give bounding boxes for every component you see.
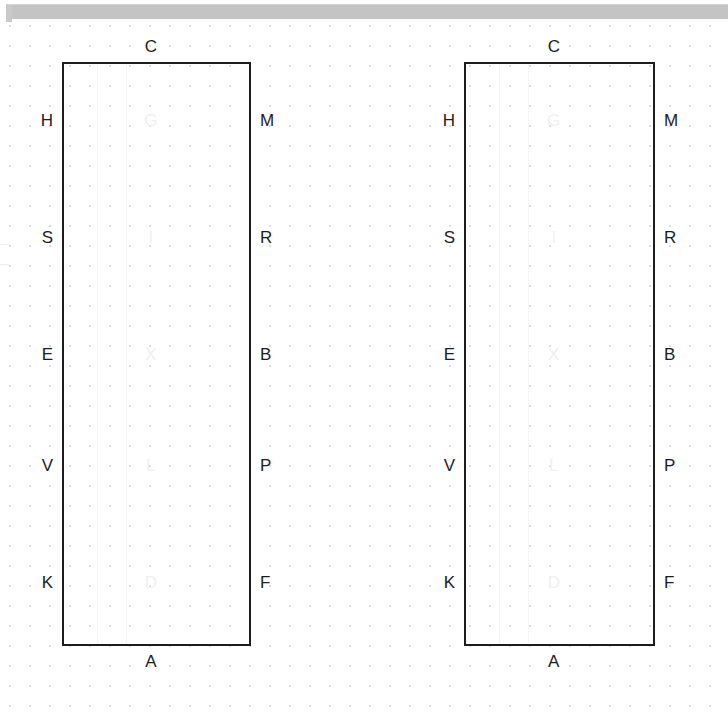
rectangle-left[interactable] <box>62 62 251 646</box>
shape-inner-guides <box>64 64 249 644</box>
port-left-E[interactable]: E <box>444 346 455 363</box>
port-bottom-A[interactable]: A <box>145 653 156 670</box>
port-right-R[interactable]: R <box>260 229 272 246</box>
port-top-C[interactable]: C <box>145 38 157 55</box>
port-right-R[interactable]: R <box>664 229 676 246</box>
rectangle-right[interactable] <box>464 62 655 646</box>
port-bottom-A[interactable]: A <box>548 653 559 670</box>
vertical-guide-2 <box>126 64 127 644</box>
diagram-canvas[interactable]: CAHSEVKMRBPFGIXLDCAHSEVKMRBPFGIXLD <box>0 22 728 717</box>
port-left-E[interactable]: E <box>42 346 53 363</box>
port-right-M[interactable]: M <box>664 112 678 129</box>
port-inner-L[interactable]: L <box>146 456 155 473</box>
port-right-P[interactable]: P <box>260 456 271 473</box>
port-inner-D[interactable]: D <box>145 573 157 590</box>
port-right-B[interactable]: B <box>260 346 271 363</box>
port-left-V[interactable]: V <box>42 456 53 473</box>
port-inner-X[interactable]: X <box>145 346 156 363</box>
port-right-F[interactable]: F <box>260 573 270 590</box>
port-inner-I[interactable]: I <box>148 229 153 246</box>
port-right-F[interactable]: F <box>664 573 674 590</box>
port-left-S[interactable]: S <box>42 229 53 246</box>
port-inner-L[interactable]: L <box>549 456 558 473</box>
app-chrome <box>0 0 728 22</box>
port-top-C[interactable]: C <box>548 38 560 55</box>
vertical-guide-1 <box>499 64 500 644</box>
port-left-K[interactable]: K <box>444 573 455 590</box>
shape-inner-guides <box>466 64 653 644</box>
toolbar-strip[interactable] <box>6 4 728 19</box>
canvas-edge-tick-2 <box>0 264 9 265</box>
port-left-V[interactable]: V <box>444 456 455 473</box>
vertical-guide-2 <box>528 64 529 644</box>
canvas-edge-tick-1 <box>0 244 9 245</box>
port-inner-G[interactable]: G <box>547 112 560 129</box>
port-inner-I[interactable]: I <box>551 229 556 246</box>
port-right-P[interactable]: P <box>664 456 675 473</box>
port-inner-X[interactable]: X <box>548 346 559 363</box>
port-left-H[interactable]: H <box>41 112 53 129</box>
toolbar-strip-left-nub <box>6 5 12 22</box>
port-left-H[interactable]: H <box>443 112 455 129</box>
vertical-guide-1 <box>97 64 98 644</box>
port-left-S[interactable]: S <box>444 229 455 246</box>
port-inner-D[interactable]: D <box>548 573 560 590</box>
port-right-M[interactable]: M <box>260 112 274 129</box>
port-right-B[interactable]: B <box>664 346 675 363</box>
port-inner-G[interactable]: G <box>144 112 157 129</box>
port-left-K[interactable]: K <box>42 573 53 590</box>
